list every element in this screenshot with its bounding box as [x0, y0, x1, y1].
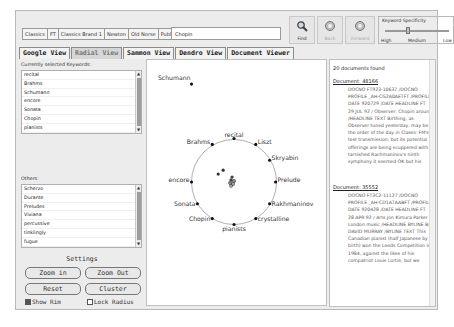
selected-keywords-label: Currently selected Keywords:: [21, 62, 91, 67]
list-item[interactable]: Brahms: [22, 80, 141, 89]
database-tab-classics[interactable]: Classics: [23, 29, 48, 39]
document-results-panel: 20 documents found Document: 48166 DOCNO…: [329, 59, 436, 307]
keyword-label[interactable]: crystalline: [258, 215, 290, 223]
list-item[interactable]: percussive: [22, 220, 141, 229]
selected-list-scrollbar[interactable]: ▲ ▼: [135, 71, 141, 133]
database-tab-classics-brand[interactable]: Classics Brand 1: [59, 29, 105, 39]
document-link[interactable]: Document: 35552: [333, 184, 378, 190]
keyword-node[interactable]: [190, 83, 193, 86]
database-tab-newton[interactable]: Newton: [105, 29, 129, 39]
list-item[interactable]: Preludes: [22, 203, 141, 212]
others-list-scrollbar[interactable]: ▲ ▼: [135, 185, 141, 247]
tab-sammon-view[interactable]: Sammon View: [123, 47, 174, 59]
database-tab-ft[interactable]: FT: [48, 29, 59, 39]
keyword-label[interactable]: Chopin: [189, 215, 210, 223]
list-item[interactable]: fugue: [22, 238, 141, 247]
keyword-node[interactable]: [211, 217, 214, 220]
lock-radius-checkbox[interactable]: Lock Radius: [87, 298, 134, 305]
other-keywords-list[interactable]: Scherzo Durante Preludes Viviana percuss…: [21, 184, 142, 248]
scroll-up-icon[interactable]: ▲: [136, 185, 141, 191]
selected-keywords-list[interactable]: recital Brahms Schumann encore Sonata Ch…: [21, 70, 142, 134]
specificity-title: Keyword Specificity: [382, 18, 426, 23]
specificity-high-label: High: [381, 38, 391, 43]
others-label: Others:: [21, 176, 39, 181]
database-selector: Classics FT Classics Brand 1 Newton Old …: [22, 28, 183, 40]
forward-arrow-icon: [354, 20, 366, 32]
keyword-label[interactable]: Prelude: [278, 176, 301, 183]
lock-radius-label: Lock Radius: [94, 298, 134, 305]
keyword-label[interactable]: Rakhmaninov: [272, 200, 314, 207]
keyword-label[interactable]: Liszt: [258, 138, 273, 145]
view-tabs: Google View Radial View Sammon View Dend…: [19, 47, 295, 59]
radial-graph[interactable]: SchumannrecitalBrahmsLisztSkryabinPrelud…: [147, 60, 326, 305]
keyword-label[interactable]: Sonata: [174, 200, 196, 207]
keyword-label[interactable]: recital: [224, 131, 243, 138]
keyword-label[interactable]: pianists: [222, 225, 246, 233]
forward-button[interactable]: Forward: [345, 16, 375, 44]
specificity-low-label: Low: [443, 38, 452, 43]
scrollbar-thumb[interactable]: [137, 192, 141, 240]
show-rim-checkbox[interactable]: Show Rim: [25, 298, 61, 305]
keyword-node[interactable]: [211, 143, 214, 146]
cluster-button[interactable]: Cluster: [85, 283, 141, 295]
specificity-slider-thumb[interactable]: [406, 27, 410, 34]
keyword-node[interactable]: [196, 202, 199, 205]
keyword-label[interactable]: Skryabin: [272, 154, 299, 162]
radial-view-canvas[interactable]: SchumannrecitalBrahmsLisztSkryabinPrelud…: [146, 59, 327, 306]
query-input[interactable]: Chopin: [171, 27, 281, 40]
specificity-medium-label: Medium: [408, 38, 426, 43]
document-link[interactable]: Document: 48166: [333, 78, 378, 84]
keyword-nodes[interactable]: SchumannrecitalBrahmsLisztSkryabinPrelud…: [158, 74, 314, 233]
keyword-label[interactable]: encore: [169, 176, 190, 183]
zoom-in-button[interactable]: Zoom in: [25, 267, 81, 279]
reset-button[interactable]: Reset: [25, 283, 81, 295]
keyword-panel: Currently selected Keywords: recital Bra…: [19, 59, 145, 307]
list-item[interactable]: Chopin: [22, 115, 141, 124]
list-item[interactable]: Scherzo: [22, 185, 141, 194]
scroll-up-icon[interactable]: ▲: [136, 71, 141, 77]
tab-google-view[interactable]: Google View: [19, 47, 70, 59]
scroll-down-icon[interactable]: ▼: [136, 241, 141, 247]
list-item[interactable]: Viviana: [22, 211, 141, 220]
checkbox-unchecked-icon[interactable]: [87, 299, 93, 305]
list-item[interactable]: Schumann: [22, 89, 141, 98]
tab-document-viewer[interactable]: Document Viewer: [227, 47, 294, 59]
scroll-down-icon[interactable]: ▼: [136, 127, 141, 133]
tab-dendro-view[interactable]: Dendro View: [175, 47, 226, 59]
list-item[interactable]: encore: [22, 97, 141, 106]
document-cluster[interactable]: [217, 169, 236, 188]
app-window: Classics FT Classics Brand 1 Newton Old …: [15, 10, 438, 310]
find-label: Find: [290, 36, 314, 41]
specificity-slider-track[interactable]: [385, 30, 449, 32]
keyword-specificity-panel: Keyword Specificity High Medium Low: [378, 16, 454, 44]
forward-label: Forward: [346, 36, 374, 41]
show-rim-label: Show Rim: [32, 298, 61, 305]
zoom-out-button[interactable]: Zoom Out: [85, 267, 141, 279]
documents-found-count: 20 documents found: [333, 65, 385, 71]
document-snippet: DOCNO FT3C2-11127 /DOCNO PROFILE _AH-CD1…: [348, 192, 432, 264]
back-arrow-icon: [324, 20, 336, 32]
keyword-node[interactable]: [190, 180, 193, 183]
tab-radial-view[interactable]: Radial View: [71, 47, 122, 59]
toolbar: Classics FT Classics Brand 1 Newton Old …: [19, 14, 434, 46]
back-button[interactable]: Back: [317, 16, 343, 44]
list-item[interactable]: recital: [22, 71, 141, 80]
keyword-label[interactable]: Schumann: [158, 74, 191, 81]
list-item[interactable]: Durante: [22, 194, 141, 203]
list-item[interactable]: tinklingly: [22, 229, 141, 238]
list-item[interactable]: Sonata: [22, 106, 141, 115]
list-item[interactable]: pianists: [22, 124, 141, 133]
document-scrollbar[interactable]: [429, 60, 435, 306]
checkbox-checked-icon[interactable]: [25, 299, 31, 305]
document-snippet: DOCNO FT923-10637 /DOCNO PROFILE _AH-CG2…: [348, 86, 432, 165]
database-tab-old-norse[interactable]: Old Norse: [129, 29, 159, 39]
scrollbar-thumb[interactable]: [137, 78, 141, 126]
back-label: Back: [318, 36, 342, 41]
find-button[interactable]: Find: [289, 16, 315, 44]
keyword-label[interactable]: Brahms: [187, 138, 211, 145]
settings-title: Settings: [19, 255, 145, 263]
magnifier-icon: [296, 20, 308, 32]
